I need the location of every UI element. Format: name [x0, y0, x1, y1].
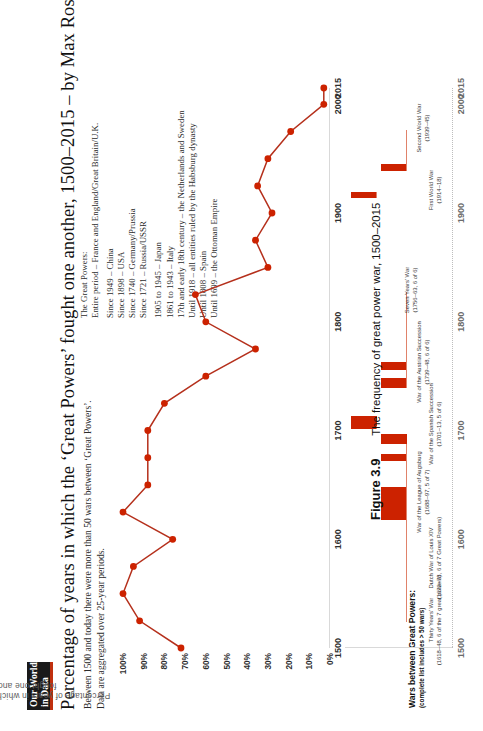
data-point-1950[interactable]	[265, 155, 272, 162]
data-point-2015[interactable]	[320, 85, 327, 92]
data-point-1850[interactable]	[265, 264, 272, 271]
war-bar-1914[interactable]	[351, 192, 377, 198]
wars-panel-title: Wars between Great Powers:	[407, 548, 417, 708]
data-point-1900[interactable]	[269, 210, 276, 217]
war-label-1939: Second World War(1939–45)	[416, 82, 431, 174]
y-tick-80: 80%	[159, 653, 169, 670]
war-bar-1688[interactable]	[381, 434, 407, 444]
war-bar-1939[interactable]	[381, 164, 407, 171]
war-callout-1939	[406, 130, 407, 171]
wars-panel: Wars between Great Powers: (complete lis…	[345, 88, 453, 648]
data-point-1500[interactable]	[178, 645, 185, 652]
x-tick-1900: 1900	[456, 203, 466, 223]
x-tick-1500: 1500	[333, 638, 343, 658]
war-label-1756: Seven Years’ War(1756–63, 6 of 6)	[404, 244, 419, 336]
rotated-figure-wrapper: Our World in Data Percentage of years in…	[0, 0, 483, 731]
data-point-1975[interactable]	[287, 128, 294, 135]
wars-axis-baseline	[451, 88, 453, 648]
x-tick-1700: 1700	[333, 421, 343, 441]
war-detail: (1914–18)	[436, 144, 443, 236]
y-tick-90: 90%	[139, 653, 149, 670]
data-point-1575[interactable]	[130, 563, 137, 570]
figure-number: Figure 3.9	[368, 459, 383, 520]
data-point-1600[interactable]	[169, 536, 176, 543]
war-bar-1739[interactable]	[381, 378, 407, 388]
war-detail: (1739–48, 6 of 6)	[424, 316, 431, 408]
x-tick-1700: 1700	[456, 421, 466, 441]
war-detail: (1701–13, 5 of 6)	[436, 378, 443, 470]
data-point-1625[interactable]	[120, 509, 127, 516]
y-tick-30: 30%	[263, 653, 273, 670]
data-point-1750[interactable]	[202, 373, 209, 380]
war-bar-1756[interactable]	[381, 362, 407, 370]
x-tick-2015: 2015	[456, 78, 466, 98]
series-polyline	[123, 88, 324, 648]
x-tick-1600: 1600	[456, 529, 466, 549]
wars-panel-subtitle: (complete list includes > 50 wars)	[418, 548, 425, 708]
legend-row-entire-period: Entire period – France and England/Great…	[90, 18, 101, 318]
war-bar-1672[interactable]	[381, 454, 407, 461]
war-detail: (1939–45)	[424, 82, 431, 174]
data-point-1650[interactable]	[144, 482, 151, 489]
data-point-1700[interactable]	[144, 427, 151, 434]
y-tick-60: 60%	[201, 653, 211, 670]
x-tick-1600: 1600	[333, 529, 343, 549]
war-callout-1914	[376, 192, 377, 198]
war-name: Second World War	[416, 82, 423, 174]
figure-caption-text: The frequency of great power war, 1500–2…	[370, 203, 382, 436]
x-tick-2015: 2015	[333, 78, 343, 98]
x-tick-1500: 1500	[456, 638, 466, 658]
data-point-1675[interactable]	[144, 454, 151, 461]
x-tick-1900: 1900	[333, 203, 343, 223]
y-axis-label: Percentage of years in which the great p…	[0, 687, 123, 701]
data-point-2000[interactable]	[320, 101, 327, 108]
legend-heading: The Great Powers:	[79, 18, 89, 318]
figure-caption: Figure 3.9 The frequency of great power …	[366, 260, 384, 520]
legend-row-china: Since 1949 – China	[105, 18, 116, 318]
data-point-1725[interactable]	[161, 400, 168, 407]
x-tick-1800: 1800	[333, 312, 343, 332]
war-name: Seven Years’ War	[404, 244, 411, 336]
y-tick-10: 10%	[304, 653, 314, 670]
data-point-1925[interactable]	[254, 183, 261, 190]
chart-title: Percentage of years in which the ‘Great …	[58, 20, 79, 710]
war-detail: (1672–78, 6 of 7 Great Powers)	[436, 512, 443, 604]
data-point-1775[interactable]	[252, 346, 259, 353]
war-name: War of the League of Augsburg	[416, 446, 423, 538]
book-page: Our World in Data Percentage of years in…	[0, 0, 483, 731]
data-point-1550[interactable]	[120, 590, 127, 597]
owid-chart: Our World in Data Percentage of years in…	[27, 20, 457, 710]
x-tick-1800: 1800	[456, 312, 466, 332]
data-point-1825[interactable]	[192, 291, 199, 298]
y-tick-100: 100%	[118, 653, 128, 674]
y-tick-70: 70%	[180, 653, 190, 670]
war-callout-1688	[406, 444, 407, 494]
data-point-1800[interactable]	[202, 318, 209, 325]
data-point-1875[interactable]	[252, 237, 259, 244]
y-tick-20: 20%	[284, 653, 294, 670]
y-tick-40: 40%	[242, 653, 252, 670]
data-point-1525[interactable]	[136, 617, 143, 624]
line-plot-area: Percentage of years in which the great p…	[123, 88, 330, 648]
data-line-series	[123, 88, 330, 648]
war-detail: (1756–63, 6 of 6)	[412, 244, 419, 336]
war-bar-1618[interactable]	[381, 487, 407, 520]
y-tick-50: 50%	[222, 653, 232, 670]
